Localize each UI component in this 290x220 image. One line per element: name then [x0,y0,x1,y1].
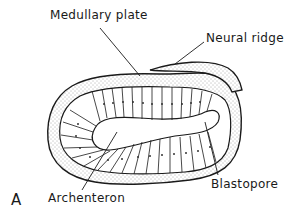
label-neural-ridge: Neural ridge [206,32,284,44]
neural-ridge-leader [175,42,204,64]
panel-letter: A [11,193,21,208]
diagram-canvas: Medullary plate Neural ridge Blastopore … [0,0,290,220]
label-blastopore: Blastopore [211,178,278,190]
label-medullary-plate: Medullary plate [50,9,148,21]
label-archenteron: Archenteron [48,192,125,204]
medullary-plate-leader [100,28,140,76]
